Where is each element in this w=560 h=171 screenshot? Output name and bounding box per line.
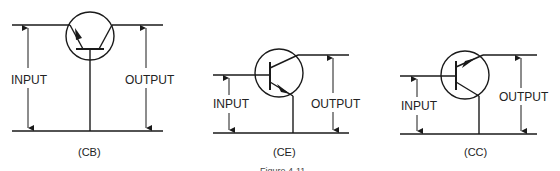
collector-lead	[456, 82, 479, 96]
collector-lead	[270, 55, 298, 68]
caption-ce: (CE)	[273, 146, 296, 158]
emitter-arrow-icon	[277, 84, 290, 94]
output-label-cc: OUTPUT	[499, 90, 549, 104]
output-label-cb: OUTPUT	[125, 73, 175, 87]
caption-cc: (CC)	[464, 146, 487, 158]
transistor-circle	[441, 51, 489, 99]
input-label-ce: INPUT	[213, 97, 250, 111]
caption-cb: (CB)	[78, 146, 101, 158]
emitter-arrow-icon	[75, 28, 82, 40]
figure-caption: Figure 4-11	[260, 166, 305, 171]
collector-lead	[99, 25, 112, 49]
transistor-configurations-diagram: INPUT OUTPUT (CB) INPUT OUTPUT (CE)	[0, 0, 560, 171]
output-label-ce: OUTPUT	[311, 97, 361, 111]
circuit-common-base	[12, 12, 163, 131]
input-label-cc: INPUT	[401, 99, 438, 113]
input-label-cb: INPUT	[11, 73, 48, 87]
